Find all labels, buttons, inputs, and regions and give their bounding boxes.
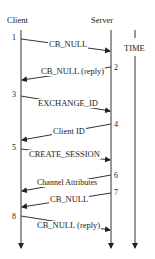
step-number: 6 (114, 172, 118, 180)
time-label: TIME (124, 44, 145, 53)
step-number: 7 (114, 189, 118, 197)
client-actor-label: Client (7, 16, 28, 25)
step-number: 3 (12, 91, 16, 99)
step-number: 4 (114, 121, 118, 129)
message-label: CB_NULL (reply) (36, 221, 101, 230)
server-actor-label: Server (91, 16, 113, 25)
message-label: CB_NULL (49, 195, 89, 204)
message-label: CB_NULL (48, 40, 88, 49)
step-number: 5 (12, 144, 16, 152)
step-number: 2 (114, 64, 118, 72)
step-number: 8 (12, 213, 16, 221)
step-number: 1 (12, 34, 16, 42)
message-label: CB_NULL (reply) (40, 67, 105, 76)
message-label: EXCHANGE_ID (37, 99, 99, 108)
message-label: CREATE_SESSION (28, 150, 101, 159)
message-label: Client ID (52, 127, 86, 136)
message-label: Channel Attributes (36, 179, 98, 187)
